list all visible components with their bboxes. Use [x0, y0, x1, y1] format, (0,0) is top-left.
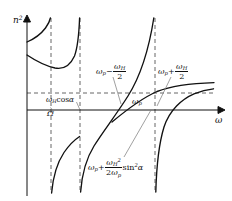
numerator-exponent-2: 2 [117, 157, 120, 163]
y-axis-label: n2 [13, 16, 23, 25]
denominator-subscript-p: p [118, 172, 121, 178]
denominator-omega: ω [111, 168, 118, 177]
label-omega-p-plus-half-omega-h: ωp+ωH2 [158, 62, 189, 81]
leader-wp-sin [124, 110, 151, 157]
plus-operator: + [168, 67, 175, 76]
y-axis-label-exponent: 2 [19, 14, 23, 21]
curve-right-branch-lower [156, 89, 214, 192]
cos-operator: cos [56, 95, 69, 104]
omega-p-symbol: ω [96, 67, 103, 76]
fraction-omega-h-squared-over-2-omega-p: ωH22ωp [105, 158, 122, 177]
label-omega-p-plus-sin-squared-term: ωp+ωH22ωpsin2α [88, 158, 143, 177]
x-axis-label: ω [215, 116, 222, 125]
fraction-denominator: 2ωp [105, 168, 122, 177]
x-axis-arrowhead [218, 107, 225, 114]
label-omega-p: ωp [132, 98, 142, 106]
sin-operator: sin [123, 163, 135, 172]
y-axis-label-base: n [13, 15, 19, 25]
omega-symbol: ω [88, 163, 95, 172]
label-omega-h-cos-alpha: ωHcosα [46, 96, 74, 104]
fraction-numerator: ωH [175, 62, 188, 72]
fraction-numerator: ωH2 [105, 158, 122, 168]
numerator-subscript-h: H [183, 65, 188, 71]
numerator-omega: ω [106, 158, 113, 167]
fraction-denominator: 2 [175, 72, 188, 81]
curve-lower-left-branch [52, 137, 80, 194]
numerator-omega: ω [176, 62, 183, 71]
numerator-subscript-h: H [121, 65, 126, 71]
curve-upper-left-branch-2 [27, 18, 80, 68]
leader-wh-cos-alpha [77, 102, 81, 110]
numerator-omega: ω [114, 62, 121, 71]
alpha-symbol: α [138, 163, 143, 172]
label-big-omega: Ω [47, 110, 54, 118]
minus-operator: − [106, 67, 113, 76]
subscript-p: p [165, 70, 168, 76]
label-omega-p-minus-half-omega-h: ωp−ωH2 [96, 62, 127, 81]
subscript-p: p [95, 166, 98, 172]
omega-symbol: ω [132, 97, 139, 106]
leader-lines [51, 77, 172, 157]
fraction-numerator: ωH [113, 62, 126, 72]
curve-right-branch-upper [112, 83, 214, 122]
fraction-omega-h-over-2: ωH2 [113, 62, 126, 81]
sin-exponent-2: 2 [134, 162, 137, 168]
y-axis-arrowhead [24, 15, 31, 22]
subscript-h: H [52, 98, 56, 104]
dispersion-diagram-figure: n2 ω ωHcosα Ω ωp−ωH2 ωp+ωH2 ωp ωp+ωH22ωp… [0, 0, 232, 201]
subscript-p: p [103, 70, 106, 76]
fraction-omega-h-over-2: ωH2 [175, 62, 188, 81]
omega-p-symbol: ω [158, 67, 165, 76]
plus-operator: + [98, 163, 105, 172]
fraction-denominator: 2 [113, 72, 126, 81]
alpha-symbol: α [69, 95, 74, 104]
subscript-p: p [139, 100, 142, 106]
